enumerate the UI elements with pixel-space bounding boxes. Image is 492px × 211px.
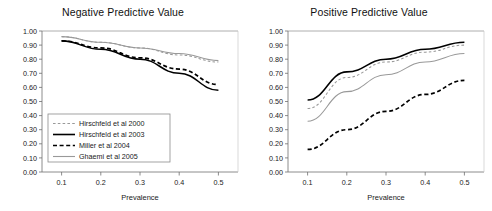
y-tick-label: 0.60 (269, 83, 283, 92)
y-tick-label: 0.60 (23, 83, 37, 92)
panel-negative-predictive-value: Negative Predictive Value 0.000.100.200.… (0, 0, 246, 211)
ppv-chart-svg: 0.000.100.200.300.400.500.600.700.800.90… (246, 0, 492, 211)
y-tick-label: 0.30 (23, 125, 37, 134)
y-tick-label: 0.40 (23, 111, 37, 120)
y-tick-label: 0.20 (23, 139, 37, 148)
legend-label-4: Ghaemi et al 2005 (79, 152, 138, 161)
y-tick-label: 0.40 (269, 111, 283, 120)
y-tick-label: 0.10 (23, 154, 37, 163)
y-tick-label: 0.50 (23, 97, 37, 106)
x-axis-title: Prevalence (367, 193, 405, 202)
x-axis-title: Prevalence (121, 193, 159, 202)
x-tick-label: 0.2 (96, 178, 106, 187)
y-tick-label: 1.00 (23, 27, 37, 36)
legend-label-2: Hirschfeld et al 2003 (79, 130, 145, 139)
y-tick-label: 0.00 (23, 168, 37, 177)
x-tick-label: 0.5 (459, 178, 469, 187)
x-tick-label: 0.5 (213, 178, 223, 187)
series-line-4 (308, 80, 465, 149)
figure-two-panel-predictive-value: Negative Predictive Value 0.000.100.200.… (0, 0, 492, 211)
legend-label-3: Miller et al 2004 (79, 141, 130, 150)
y-tick-label: 0.70 (23, 69, 37, 78)
x-tick-label: 0.3 (381, 178, 391, 187)
plot-area-npv: 0.000.100.200.300.400.500.600.700.800.90… (0, 0, 246, 211)
y-tick-label: 0.20 (269, 139, 283, 148)
y-tick-label: 0.30 (269, 125, 283, 134)
x-tick-label: 0.4 (174, 178, 184, 187)
x-tick-label: 0.1 (303, 178, 313, 187)
y-tick-label: 0.90 (23, 41, 37, 50)
plot-area-ppv: 0.000.100.200.300.400.500.600.700.800.90… (246, 0, 492, 211)
y-tick-label: 0.10 (269, 154, 283, 163)
y-tick-label: 1.00 (269, 27, 283, 36)
y-tick-label: 0.50 (269, 97, 283, 106)
y-tick-label: 0.80 (23, 55, 37, 64)
x-tick-label: 0.3 (135, 178, 145, 187)
x-tick-label: 0.2 (342, 178, 352, 187)
y-tick-label: 0.90 (269, 41, 283, 50)
npv-chart-svg: 0.000.100.200.300.400.500.600.700.800.90… (0, 0, 246, 211)
series-line-1 (308, 42, 465, 100)
y-tick-label: 0.70 (269, 69, 283, 78)
y-tick-label: 0.00 (269, 168, 283, 177)
legend-label-1: Hirschfeld et al 2000 (79, 119, 145, 128)
y-tick-label: 0.80 (269, 55, 283, 64)
series-line-2 (308, 45, 465, 108)
x-tick-label: 0.4 (420, 178, 430, 187)
panel-positive-predictive-value: Positive Predictive Value 0.000.100.200.… (246, 0, 492, 211)
x-tick-label: 0.1 (57, 178, 67, 187)
